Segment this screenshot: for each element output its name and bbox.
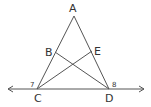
label-c: C — [34, 92, 42, 105]
angle-label-7: 7 — [30, 81, 34, 89]
label-e: E — [94, 45, 101, 58]
label-a: A — [69, 2, 77, 15]
geometry-diagram: A B E C D 7 8 — [0, 0, 151, 107]
label-d: D — [105, 92, 113, 105]
label-b: B — [45, 46, 53, 59]
angle-label-8: 8 — [112, 81, 116, 89]
segment-ad — [74, 16, 109, 89]
